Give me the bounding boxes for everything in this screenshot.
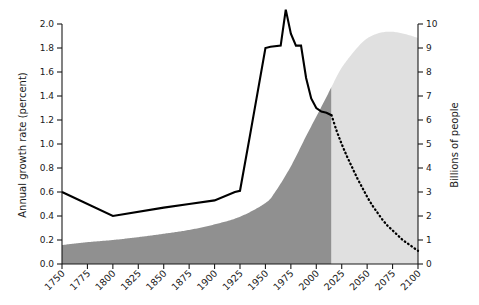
right-tick-label: 9 (426, 43, 432, 53)
right-tick-label: 5 (426, 139, 432, 149)
left-tick-label: 0.8 (40, 163, 55, 173)
left-tick-label: 1.4 (40, 91, 55, 101)
right-tick-label: 6 (426, 115, 432, 125)
right-tick-label: 7 (426, 91, 432, 101)
left-tick-label: 1.2 (40, 115, 54, 125)
left-tick-label: 2.0 (40, 19, 55, 29)
right-tick-label: 2 (426, 211, 432, 221)
right-tick-label: 8 (426, 67, 432, 77)
left-tick-label: 1.6 (40, 67, 55, 77)
right-tick-label: 3 (426, 187, 432, 197)
left-tick-label: 1.8 (40, 43, 55, 53)
left-tick-label: 0.0 (40, 259, 55, 269)
left-tick-label: 0.4 (40, 211, 55, 221)
right-tick-label: 0 (426, 259, 432, 269)
right-axis-title: Billions of people (449, 102, 460, 188)
right-tick-label: 1 (426, 235, 432, 245)
chart-figure: 0.00.20.40.60.81.01.21.41.61.82.0 012345… (0, 0, 479, 305)
left-tick-label: 0.2 (40, 235, 54, 245)
left-axis-title: Annual growth rate (percent) (17, 72, 28, 218)
right-tick-label: 4 (426, 163, 432, 173)
right-tick-label: 10 (426, 19, 438, 29)
left-tick-label: 0.6 (40, 187, 55, 197)
population-growth-chart: 0.00.20.40.60.81.01.21.41.61.82.0 012345… (0, 0, 479, 305)
left-tick-label: 1.0 (40, 139, 55, 149)
population-projected-area (332, 32, 418, 264)
